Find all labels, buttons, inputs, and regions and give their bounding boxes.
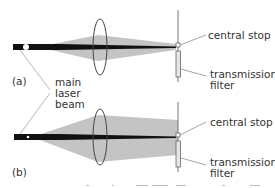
central-stop-a <box>176 43 180 47</box>
cropped-caption-fragment <box>86 185 260 186</box>
leader-filter-a <box>181 69 206 76</box>
transmission-filter-label-b-line2: filter <box>210 167 234 179</box>
panel-label-a: (a) <box>12 75 27 87</box>
beam-spot-a <box>23 44 29 50</box>
panel-label-b: (b) <box>12 166 27 178</box>
panel-a-optics <box>13 10 206 82</box>
beam-spot-b <box>27 136 30 139</box>
main-beam-label-line3: beam <box>55 98 85 110</box>
central-stop-b <box>176 133 180 137</box>
leader-central-stop-b <box>180 122 206 135</box>
transmission-filter-a <box>176 51 181 77</box>
leader-filter-b <box>181 158 206 165</box>
central-stop-label-b: central stop <box>210 116 273 128</box>
leader-central-stop-a <box>180 35 206 45</box>
panel-b-optics <box>14 102 206 172</box>
central-stop-label-a: central stop <box>208 29 271 41</box>
transmission-filter-b <box>176 141 181 167</box>
leader-main-beam-b <box>20 93 50 134</box>
transmission-filter-label-a-line2: filter <box>210 79 234 91</box>
